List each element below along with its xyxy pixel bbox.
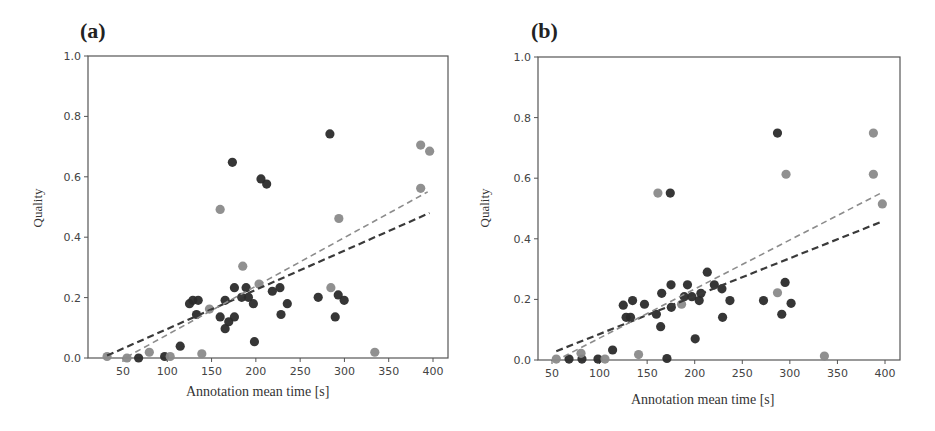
gray-data-point xyxy=(370,348,379,357)
x-axis-label-b: Annotation mean time [s] xyxy=(631,392,774,408)
y-tick-label: 0.0 xyxy=(64,352,82,365)
gray-data-point xyxy=(552,354,561,363)
scatter-plot-b: 0.00.20.40.60.81.05010015020025030035040… xyxy=(467,0,935,431)
dark-data-point xyxy=(777,310,786,319)
dark-data-point xyxy=(640,300,649,309)
dark-data-point xyxy=(325,129,334,138)
gray-data-point xyxy=(781,170,790,179)
dark-data-point xyxy=(691,334,700,343)
dark-data-point xyxy=(176,342,185,351)
x-tick-label: 50 xyxy=(116,365,130,378)
dark-data-point xyxy=(786,299,795,308)
dark-data-point xyxy=(608,345,617,354)
y-tick-label: 0.4 xyxy=(64,231,82,244)
x-tick-label: 150 xyxy=(637,367,658,380)
dark-fit-line xyxy=(107,213,429,356)
dark-data-point xyxy=(657,289,666,298)
x-tick-label: 350 xyxy=(378,365,399,378)
dark-data-point xyxy=(283,299,292,308)
y-tick-label: 0.0 xyxy=(514,354,532,367)
dark-data-point xyxy=(228,158,237,167)
gray-data-point xyxy=(820,351,829,360)
gray-data-point xyxy=(166,352,175,361)
gray-data-point xyxy=(869,128,878,137)
panel-b: (b) 0.00.20.40.60.81.0501001502002503003… xyxy=(467,0,935,431)
y-tick-label: 1.0 xyxy=(514,51,532,64)
dark-data-point xyxy=(262,179,271,188)
gray-data-point xyxy=(878,199,887,208)
gray-fit-line xyxy=(127,192,428,357)
y-tick-label: 0.2 xyxy=(514,293,532,306)
gray-data-point xyxy=(197,349,206,358)
x-tick-label: 150 xyxy=(201,365,222,378)
dark-data-point xyxy=(718,313,727,322)
dark-data-point xyxy=(773,128,782,137)
dark-data-point xyxy=(230,283,239,292)
x-tick-label: 250 xyxy=(290,365,311,378)
gray-data-point xyxy=(416,140,425,149)
dark-data-point xyxy=(314,293,323,302)
dark-data-point xyxy=(628,296,637,305)
gray-data-point xyxy=(145,348,154,357)
gray-data-point xyxy=(773,288,782,297)
x-tick-label: 100 xyxy=(157,365,178,378)
dark-data-point xyxy=(725,296,734,305)
gray-data-point xyxy=(600,354,609,363)
x-tick-label: 50 xyxy=(545,367,559,380)
x-tick-label: 400 xyxy=(423,365,444,378)
dark-data-point xyxy=(242,283,251,292)
x-tick-label: 300 xyxy=(779,367,800,380)
gray-data-point xyxy=(216,205,225,214)
dark-data-point xyxy=(781,278,790,287)
dark-data-point xyxy=(662,354,671,363)
x-tick-label: 400 xyxy=(875,367,896,380)
y-tick-label: 0.6 xyxy=(514,172,532,185)
dark-data-point xyxy=(331,312,340,321)
gray-data-point xyxy=(653,188,662,197)
dark-data-point xyxy=(194,296,203,305)
y-tick-label: 0.6 xyxy=(64,171,82,184)
dark-data-point xyxy=(340,296,349,305)
dark-data-point xyxy=(134,353,143,362)
gray-data-point xyxy=(416,184,425,193)
dark-data-point xyxy=(759,296,768,305)
dark-data-point xyxy=(666,280,675,289)
x-tick-label: 200 xyxy=(245,365,266,378)
gray-data-point xyxy=(238,262,247,271)
gray-data-point xyxy=(425,147,434,156)
x-tick-label: 250 xyxy=(732,367,753,380)
x-tick-label: 200 xyxy=(684,367,705,380)
dark-data-point xyxy=(250,337,259,346)
scatter-plot-a: 0.00.20.40.60.81.05010015020025030035040… xyxy=(0,0,467,431)
y-axis-label-a: Quality xyxy=(30,189,46,228)
y-tick-label: 1.0 xyxy=(64,50,82,63)
gray-fit-line xyxy=(563,192,882,356)
dark-data-point xyxy=(619,301,628,310)
x-tick-label: 350 xyxy=(827,367,848,380)
y-tick-label: 0.2 xyxy=(64,292,82,305)
panel-a: (a) 0.00.20.40.60.81.0501001502002503003… xyxy=(0,0,467,431)
y-tick-label: 0.4 xyxy=(514,233,532,246)
dark-data-point xyxy=(275,283,284,292)
gray-data-point xyxy=(334,214,343,223)
plot-frame xyxy=(88,56,448,358)
dark-data-point xyxy=(683,280,692,289)
dark-data-point xyxy=(656,322,665,331)
x-axis-label-a: Annotation mean time [s] xyxy=(186,384,329,400)
dark-data-point xyxy=(276,310,285,319)
y-tick-label: 0.8 xyxy=(514,112,532,125)
y-axis-label-b: Quality xyxy=(477,189,493,228)
dark-data-point xyxy=(249,299,258,308)
x-tick-label: 300 xyxy=(334,365,355,378)
gray-data-point xyxy=(634,350,643,359)
dark-data-point xyxy=(230,312,239,321)
gray-data-point xyxy=(326,283,335,292)
dark-data-point xyxy=(703,268,712,277)
gray-data-point xyxy=(869,170,878,179)
dark-data-point xyxy=(216,312,225,321)
x-tick-label: 100 xyxy=(589,367,610,380)
dark-data-point xyxy=(666,188,675,197)
y-tick-label: 0.8 xyxy=(64,110,82,123)
